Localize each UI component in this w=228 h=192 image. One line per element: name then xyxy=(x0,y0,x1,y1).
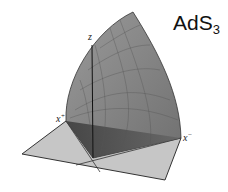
x-minus-axis-label: x− xyxy=(183,131,192,143)
x-plus-axis-label: x+ xyxy=(56,112,65,124)
title-subscript: 3 xyxy=(213,22,220,37)
title-main: AdS xyxy=(173,11,213,34)
figure-title: AdS3 xyxy=(173,11,220,37)
z-axis-label: z xyxy=(88,31,92,42)
